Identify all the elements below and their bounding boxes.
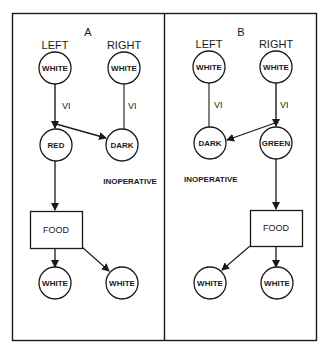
panel-b-inoperative-note: INOPERATIVE [184,175,238,184]
panel-a-top-left-node-text: WHITE [42,64,68,73]
panel-b-label: B [237,26,244,38]
panel-b-left-label: LEFT [196,38,223,50]
panel-a-left-label: LEFT [42,39,69,51]
panel-b-middle-left-node-text: DARK [198,139,221,148]
panel-a-left-vi-label: VI [62,101,71,111]
panel-b-middle-right-node-text: GREEN [262,139,291,148]
panel-b-right-vi-label: VI [280,100,289,110]
panel-b-bottom-left-node-text: WHITE [197,279,223,288]
panel-a-middle-right-node-text: DARK [110,141,133,150]
diagram-canvas: A LEFT RIGHT VI VI WHITE WHITE RED DARK … [0,0,327,348]
panel-a-bottom-left-node-text: WHITE [42,279,68,288]
panel-b-bottom-right-node-text: WHITE [264,279,290,288]
panel-a-food-text: FOOD [43,225,69,235]
panel-a-middle-left-node-text: RED [48,141,65,150]
panel-b-food-text: FOOD [263,223,289,233]
panel-a-top-right-node-text: WHITE [111,64,137,73]
panel-b-left-vi-label: VI [214,100,223,110]
panel-b-food-to-white-left-arrow [222,246,250,270]
panel-a: A LEFT RIGHT VI VI WHITE WHITE RED DARK … [31,26,158,299]
panel-b-right-label: RIGHT [259,38,294,50]
panel-a-bottom-right-node-text: WHITE [109,279,135,288]
panel-a-food-to-white-right-arrow [82,247,109,271]
panel-a-inoperative-note: INOPERATIVE [103,177,157,186]
panel-a-right-label: RIGHT [107,39,142,51]
panel-a-right-vi-label: VI [128,101,137,111]
panel-b-top-left-node-text: WHITE [196,63,222,72]
panel-b: B LEFT RIGHT VI VI WHITE WHITE DARK GREE… [184,26,303,299]
panel-a-label: A [84,26,92,38]
panel-b-top-right-node-text: WHITE [263,63,289,72]
